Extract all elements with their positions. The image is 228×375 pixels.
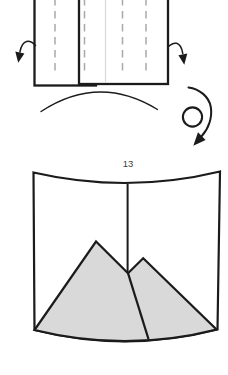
- folded-fan-figure: 13: [34, 158, 221, 342]
- origami-instruction-page: 13: [0, 0, 228, 375]
- rotate-clockwise-icon: [183, 88, 211, 146]
- pleated-paper-figure: [35, 0, 169, 86]
- rotate-circle: [183, 107, 202, 126]
- curl-left-arrow-curve: [20, 41, 36, 52]
- paper-right-panel: [79, 0, 168, 84]
- curl-right-arrow-curve: [168, 43, 183, 53]
- curl-right-arrowhead: [178, 54, 187, 65]
- sweep-arc-icon: [41, 92, 158, 112]
- origami-diagram-canvas: 13: [0, 0, 228, 375]
- curl-right-arrow-icon: [168, 43, 187, 65]
- curl-left-arrowhead: [15, 52, 24, 63]
- curl-left-arrow-icon: [15, 41, 35, 63]
- step-number-label: 13: [123, 158, 134, 169]
